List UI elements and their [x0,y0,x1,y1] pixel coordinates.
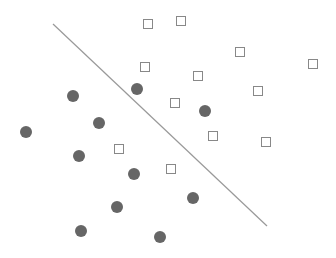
circle-point [131,83,143,95]
square-point [254,87,263,96]
square-point [194,72,203,81]
square-point [309,60,318,69]
square-point [115,145,124,154]
square-point [209,132,218,141]
circle-point [20,126,32,138]
circle-point [128,168,140,180]
circle-point [187,192,199,204]
circle-point [154,231,166,243]
square-point [177,17,186,26]
square-point [144,20,153,29]
circle-point [75,225,87,237]
circle-point [67,90,79,102]
circle-point [93,117,105,129]
square-point [141,63,150,72]
circle-point [73,150,85,162]
circle-point [199,105,211,117]
square-point [236,48,245,57]
scatter-diagram [0,0,336,258]
square-point [167,165,176,174]
separating-line [53,24,267,226]
square-point [171,99,180,108]
square-point [262,138,271,147]
circle-point [111,201,123,213]
plot-area [0,0,336,258]
